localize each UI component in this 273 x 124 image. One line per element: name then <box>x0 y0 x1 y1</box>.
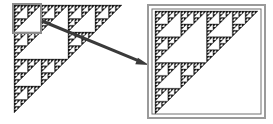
fractal-cell <box>115 5 118 8</box>
fractal-cell <box>31 39 34 42</box>
fractal-cell <box>95 5 98 8</box>
fractal-cell <box>34 5 37 8</box>
fractal-cell <box>55 12 58 15</box>
fractal-cell <box>28 35 31 38</box>
fractal-cell <box>34 35 37 38</box>
fractal-cell <box>14 46 17 49</box>
fractal-cell <box>14 49 17 52</box>
fractal-cell <box>95 22 98 25</box>
fractal-cell <box>88 5 91 8</box>
fractal-cell <box>14 62 17 65</box>
fractal-cell <box>88 8 91 11</box>
fractal-cell <box>21 76 24 79</box>
fractal-cell <box>14 39 17 42</box>
fractal-cell <box>44 25 47 28</box>
fractal-cell <box>68 39 71 42</box>
fractal-cell <box>61 62 64 65</box>
fractal-cell <box>21 103 24 106</box>
figure-canvas <box>0 0 273 124</box>
fractal-cell <box>82 15 85 18</box>
fractal-cell <box>14 96 17 99</box>
fractal-cell <box>48 8 51 11</box>
fractal-cell <box>14 89 17 92</box>
fractal-cell <box>58 12 61 15</box>
fractal-cell <box>55 15 58 18</box>
fractal-cell <box>78 46 81 49</box>
fractal-cell <box>14 5 17 8</box>
fractal-cell <box>61 59 64 62</box>
fractal-cell <box>28 69 31 72</box>
fractal-cell <box>65 5 68 8</box>
fractal-cell <box>68 52 71 55</box>
fractal-cell <box>51 19 54 22</box>
fractal-cell <box>14 29 17 32</box>
fractal-cell <box>68 8 71 11</box>
fractal-cell <box>14 86 17 89</box>
fractal-cell <box>14 66 17 69</box>
fractal-cell <box>17 52 20 55</box>
fractal-cell <box>14 19 17 22</box>
fractal-cell <box>95 19 98 22</box>
fractal-cell <box>51 73 54 76</box>
fractal-cell <box>31 5 34 8</box>
fractal-cell <box>68 49 71 52</box>
fractal-cell <box>28 96 31 99</box>
fractal-cell <box>68 25 71 28</box>
fractal-cell <box>48 19 51 22</box>
fractal-cell <box>75 19 78 22</box>
fractal-cell <box>31 59 34 62</box>
fractal-cell <box>34 62 37 65</box>
fractal-cell <box>17 100 20 103</box>
fractal-cell <box>71 12 74 15</box>
fractal-cell <box>24 100 27 103</box>
fractal-cell <box>58 59 61 62</box>
fractal-cell <box>68 19 71 22</box>
fractal-cell <box>14 15 17 18</box>
fractal-cell <box>17 93 20 96</box>
fractal-cell <box>14 106 17 109</box>
fractal-cell <box>14 59 17 62</box>
fractal-cell <box>98 5 101 8</box>
fractal-cell <box>14 100 17 103</box>
fractal-cell <box>28 89 31 92</box>
fractal-cell <box>48 62 51 65</box>
fractal-cell <box>115 8 118 11</box>
fractal-cell <box>85 5 88 8</box>
fractal-cell <box>41 62 44 65</box>
fractal-cell <box>95 8 98 11</box>
fractal-cell <box>68 22 71 25</box>
fractal-cell <box>14 83 17 86</box>
fractal-cell <box>102 22 105 25</box>
fractal-cell <box>17 59 20 62</box>
fractal-cell <box>14 52 17 55</box>
fractal-cell <box>14 103 17 106</box>
fractal-cell <box>14 56 17 59</box>
fractal-cell <box>21 19 24 22</box>
fractal-cell <box>24 19 27 22</box>
fractal-cell <box>14 76 17 79</box>
fractal-cell <box>17 39 20 42</box>
fractal-cell <box>21 59 24 62</box>
fractal-cell <box>71 25 74 28</box>
fractal-cell <box>109 12 112 15</box>
fractal-cell <box>44 73 47 76</box>
fractal-cell <box>71 52 74 55</box>
fractal-cell <box>51 5 54 8</box>
fractal-cell <box>17 5 20 8</box>
fractal-cell <box>68 12 71 15</box>
fractal-cell <box>21 22 24 25</box>
fractal-cell <box>28 93 31 96</box>
fractal-cell <box>21 89 24 92</box>
fractal-cell <box>98 19 101 22</box>
fractal-cell <box>14 35 17 38</box>
fractal-cell <box>28 66 31 69</box>
fractal-cell <box>17 46 20 49</box>
fractal-cell <box>51 59 54 62</box>
fractal-cell <box>17 73 20 76</box>
fractal-cell <box>41 69 44 72</box>
fractal-cell <box>98 12 101 15</box>
fractal-cell <box>102 8 105 11</box>
fractal-cell <box>48 73 51 76</box>
fractal-cell <box>95 29 98 32</box>
fractal-cell <box>65 59 68 62</box>
